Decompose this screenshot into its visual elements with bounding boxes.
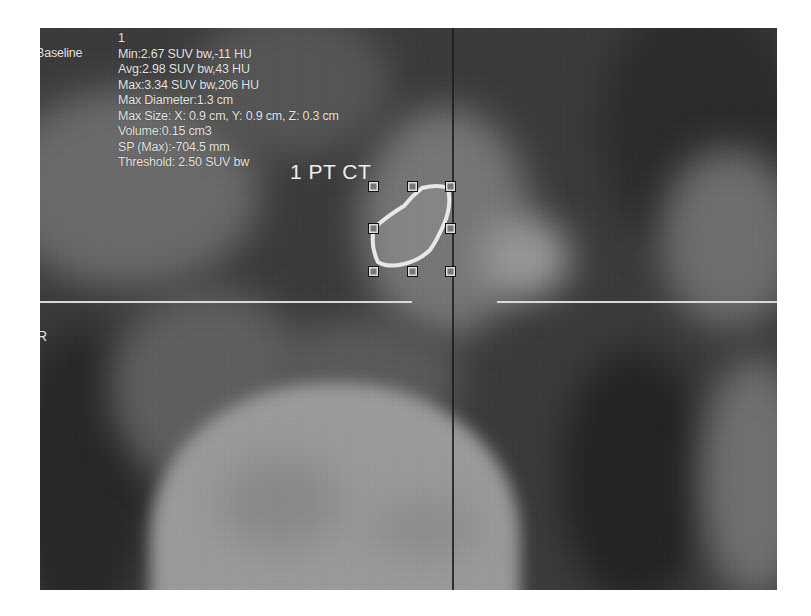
- stat-max-diameter: Max Diameter:1.3 cm: [118, 93, 339, 109]
- stat-avg: Avg:2.98 SUV bw,43 HU: [118, 62, 339, 78]
- roi-statistics: 1 Min:2.67 SUV bw,-11 HU Avg:2.98 SUV bw…: [118, 31, 339, 171]
- crosshair-horizontal-left[interactable]: [40, 301, 412, 303]
- resize-handle-icon[interactable]: [407, 266, 418, 277]
- crosshair-horizontal-right[interactable]: [497, 301, 777, 303]
- resize-handle-icon[interactable]: [368, 223, 379, 234]
- stat-max-size: Max Size: X: 0.9 cm, Y: 0.9 cm, Z: 0.3 c…: [118, 109, 339, 125]
- resize-handle-icon[interactable]: [407, 181, 418, 192]
- stat-volume: Volume:0.15 cm3: [118, 124, 339, 140]
- stat-max: Max:3.34 SUV bw,206 HU: [118, 78, 339, 94]
- crosshair-vertical[interactable]: [452, 28, 454, 590]
- stat-min: Min:2.67 SUV bw,-11 HU: [118, 47, 339, 63]
- resize-handle-icon[interactable]: [445, 266, 456, 277]
- series-label: Baseline: [40, 46, 82, 62]
- stat-sp-max: SP (Max):-704.5 mm: [118, 140, 339, 156]
- resize-handle-icon[interactable]: [445, 181, 456, 192]
- resize-handle-icon[interactable]: [368, 266, 379, 277]
- image-viewport[interactable]: Baseline 1 Min:2.67 SUV bw,-11 HU Avg:2.…: [40, 28, 777, 590]
- roi-index: 1: [118, 31, 339, 47]
- resize-handle-icon[interactable]: [445, 223, 456, 234]
- resize-handle-icon[interactable]: [368, 181, 379, 192]
- orientation-label: R: [40, 328, 47, 344]
